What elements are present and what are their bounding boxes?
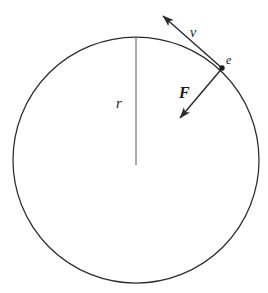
- electron-point: [219, 65, 224, 70]
- radius-label: r: [116, 96, 122, 111]
- force-label: F: [179, 85, 190, 101]
- physics-diagram-canvas: r v e F: [0, 0, 268, 293]
- electron-label: e: [226, 54, 231, 66]
- orbit-diagram-svg: [0, 0, 268, 293]
- velocity-vector: [163, 16, 221, 67]
- velocity-label: v: [190, 26, 196, 40]
